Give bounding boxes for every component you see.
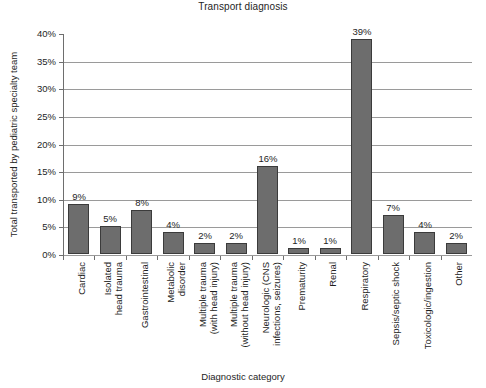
- category-label: Multiple trauma(with head injury): [197, 262, 219, 367]
- y-tick-mark: [59, 62, 64, 63]
- x-tick-mark: [157, 256, 158, 260]
- category-label-line: Sepsis/septic shock: [390, 262, 401, 367]
- x-tick-mark: [63, 256, 64, 260]
- x-tick-mark: [283, 256, 284, 260]
- bar: [414, 232, 435, 254]
- y-tick-label: 20%: [37, 140, 56, 150]
- category-label: Metabolicdisorder: [165, 262, 187, 367]
- bar-value-label: 39%: [342, 27, 382, 37]
- bar-value-label: 1%: [310, 236, 350, 246]
- category-label-line: Toxicologic/ingestion: [422, 262, 433, 367]
- gridline-0%: [63, 255, 472, 256]
- y-tick-mark: [59, 89, 64, 90]
- y-tick-label: 0%: [42, 250, 56, 260]
- category-label-line: disorder: [176, 262, 187, 367]
- category-label-line: Multiple trauma: [197, 262, 208, 367]
- category-label-line: Prematurity: [296, 262, 307, 367]
- category-label-line: Respiratory: [359, 262, 370, 367]
- y-tick-mark: [59, 172, 64, 173]
- category-label: Toxicologic/ingestion: [422, 262, 433, 367]
- x-tick-mark: [220, 256, 221, 260]
- category-label-line: head trauma: [113, 262, 124, 367]
- category-label-line: Neurologic (CNS: [260, 262, 271, 367]
- bar: [351, 39, 372, 254]
- bar: [163, 232, 184, 254]
- category-label: Neurologic (CNSinfections, seizures): [260, 262, 282, 367]
- plot-area: 0%5%10%15%20%25%30%35%40% 9%5%8%4%2%2%16…: [63, 34, 472, 255]
- gridline-20%: [63, 145, 472, 146]
- y-tick-label: 40%: [37, 29, 56, 39]
- category-label-line: Cardiac: [76, 262, 87, 367]
- category-label-line: Isolated: [102, 262, 113, 367]
- y-tick-label: 30%: [37, 84, 56, 94]
- x-tick-mark: [346, 256, 347, 260]
- category-label-line: infections, seizures): [271, 262, 282, 367]
- y-axis-title: Total transported by pediatric specialty…: [8, 30, 19, 260]
- y-tick-label: 25%: [37, 112, 56, 122]
- bar-value-label: 8%: [122, 198, 162, 208]
- x-axis-title: Diagnostic category: [0, 371, 486, 382]
- category-label-line: Gastrointestinal: [139, 262, 150, 367]
- category-label-line: (with head injury): [208, 262, 219, 367]
- y-tick-label: 10%: [37, 195, 56, 205]
- bar-value-label: 2%: [436, 231, 476, 241]
- chart-figure: Transport diagnosis Total transported by…: [0, 0, 486, 388]
- x-tick-mark: [315, 256, 316, 260]
- category-label: Sepsis/septic shock: [390, 262, 401, 367]
- bar: [446, 243, 467, 254]
- y-tick-label: 35%: [37, 57, 56, 67]
- category-label: Prematurity: [296, 262, 307, 367]
- bar: [194, 243, 215, 254]
- bar: [226, 243, 247, 254]
- category-label: Other: [453, 262, 464, 367]
- y-tick-mark: [59, 117, 64, 118]
- bar-value-label: 16%: [248, 154, 288, 164]
- gridline-25%: [63, 117, 472, 118]
- bar-value-label: 4%: [405, 220, 445, 230]
- category-label-line: Metabolic: [165, 262, 176, 367]
- bar-value-label: 5%: [90, 214, 130, 224]
- category-label-line: Renal: [327, 262, 338, 367]
- gridline-30%: [63, 89, 472, 90]
- x-tick-mark: [378, 256, 379, 260]
- bar: [320, 248, 341, 254]
- y-tick-mark: [59, 227, 64, 228]
- bar-value-label: 4%: [153, 220, 193, 230]
- x-tick-mark: [189, 256, 190, 260]
- x-tick-mark: [252, 256, 253, 260]
- bar: [131, 210, 152, 254]
- y-tick-label: 5%: [42, 222, 56, 232]
- category-label: Renal: [327, 262, 338, 367]
- x-tick-mark: [94, 256, 95, 260]
- y-tick-label: 15%: [37, 167, 56, 177]
- bar-value-label: 2%: [216, 231, 256, 241]
- bar-value-label: 7%: [373, 203, 413, 213]
- category-label-line: Other: [453, 262, 464, 367]
- x-tick-mark: [126, 256, 127, 260]
- gridline-35%: [63, 62, 472, 63]
- chart-title: Transport diagnosis: [0, 1, 486, 12]
- bar: [100, 226, 121, 254]
- bar: [383, 215, 404, 254]
- category-label: Cardiac: [76, 262, 87, 367]
- y-tick-mark: [59, 145, 64, 146]
- x-tick-mark: [409, 256, 410, 260]
- y-tick-mark: [59, 34, 64, 35]
- x-tick-mark: [441, 256, 442, 260]
- bar: [257, 166, 278, 254]
- category-label: Isolatedhead trauma: [102, 262, 124, 367]
- category-label-line: Multiple trauma: [228, 262, 239, 367]
- bar: [288, 248, 309, 254]
- category-label-line: (without head injury): [239, 262, 250, 367]
- bar-value-label: 9%: [59, 192, 99, 202]
- category-label: Gastrointestinal: [139, 262, 150, 367]
- bar: [68, 204, 89, 254]
- category-label: Multiple trauma(without head injury): [228, 262, 250, 367]
- category-label: Respiratory: [359, 262, 370, 367]
